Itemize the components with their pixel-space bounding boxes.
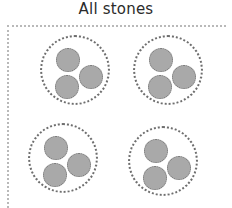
stone	[172, 65, 196, 89]
stone-groups-container	[0, 0, 232, 208]
stone-group	[128, 126, 198, 196]
stone	[44, 136, 68, 160]
stone	[167, 156, 191, 180]
stone	[149, 48, 173, 72]
stone	[143, 166, 167, 190]
stone	[79, 65, 103, 89]
stone	[43, 163, 67, 187]
stone	[148, 75, 172, 99]
stone-group	[40, 35, 110, 105]
stone	[144, 139, 168, 163]
stone-group	[133, 35, 203, 105]
stone-group	[28, 123, 98, 193]
stone	[56, 48, 80, 72]
stone	[55, 75, 79, 99]
stone	[67, 153, 91, 177]
